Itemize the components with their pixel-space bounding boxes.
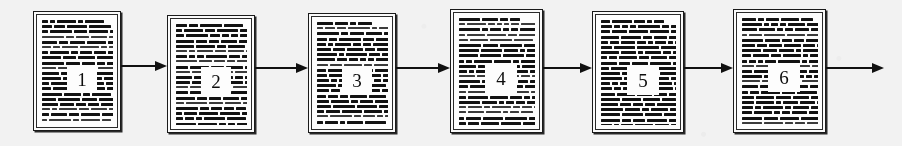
greeked-text-line	[459, 44, 535, 47]
arrow-head-icon	[580, 63, 592, 73]
document-page-5[interactable]: 5	[592, 11, 684, 133]
greeked-text-line	[601, 124, 676, 125]
greeked-text-line	[742, 34, 818, 37]
document-page-surface: 1	[36, 14, 118, 128]
greeked-text-line	[317, 43, 388, 46]
greeked-text-line	[459, 34, 535, 37]
greeked-text-line	[742, 49, 818, 52]
step-number-plaque: 2	[201, 67, 231, 95]
step-number-plaque: 5	[627, 66, 659, 95]
document-page-3[interactable]: 3	[308, 13, 396, 133]
greeked-text-line	[42, 98, 113, 101]
greeked-text-line	[317, 48, 388, 51]
greeked-text-line	[601, 108, 676, 111]
arrow-head-icon	[438, 63, 450, 73]
step-number-label: 2	[211, 72, 221, 91]
document-page-surface: 6	[736, 12, 823, 130]
greeked-text-line	[459, 60, 535, 63]
arrow-4-to-5	[543, 61, 592, 75]
greeked-text-line	[176, 50, 247, 53]
greeked-text-line	[459, 54, 535, 57]
step-number-plaque: 6	[768, 63, 800, 92]
step-number-plaque: 4	[485, 64, 517, 93]
greeked-text-line	[742, 96, 818, 99]
arrow-6-to-output	[826, 61, 884, 75]
greeked-text-line	[176, 55, 247, 58]
greeked-text-line	[42, 36, 113, 39]
greeked-text-line	[601, 56, 676, 59]
greeked-text-line	[317, 115, 388, 118]
greeked-text-line	[176, 123, 247, 125]
pipeline-figure: 123456	[0, 0, 902, 146]
greeked-text-line	[317, 105, 388, 108]
greeked-text-line	[459, 111, 535, 114]
greeked-text-line	[742, 44, 818, 47]
greeked-text-line	[459, 122, 535, 125]
arrow-2-to-3	[255, 61, 308, 75]
step-number-label: 3	[352, 71, 362, 90]
step-number-label: 1	[77, 70, 87, 89]
greeked-text-line	[42, 108, 113, 111]
greeked-text-line	[742, 111, 818, 114]
greeked-text-line	[601, 36, 676, 39]
arrow-head-icon	[296, 63, 308, 73]
greeked-text-line	[176, 24, 247, 27]
greeked-text-line	[42, 46, 113, 49]
greeked-text-line	[42, 41, 113, 44]
greeked-text-line	[601, 46, 676, 49]
greeked-text-line	[459, 49, 535, 52]
document-page-1[interactable]: 1	[33, 11, 121, 131]
greeked-text-line	[176, 60, 247, 63]
arrow-head-icon	[721, 63, 733, 73]
greeked-text-line	[459, 39, 535, 42]
arrow-shaft	[543, 67, 581, 69]
step-number-label: 6	[779, 68, 789, 87]
step-number-label: 4	[496, 69, 506, 88]
greeked-text-line	[317, 100, 388, 103]
greeked-text-line	[176, 45, 247, 48]
greeked-text-line	[742, 39, 818, 42]
greeked-text-line	[459, 101, 535, 104]
greeked-text-line	[42, 25, 113, 28]
greeked-text-line	[601, 25, 676, 28]
arrow-3-to-4	[396, 61, 450, 75]
greeked-text-line	[42, 103, 113, 106]
greeked-text-line	[459, 23, 535, 26]
arrow-head-icon	[155, 61, 167, 71]
greeked-text-line	[42, 93, 113, 96]
greeked-text-line	[42, 20, 113, 23]
document-page-surface: 4	[453, 12, 540, 130]
greeked-text-line	[742, 28, 818, 31]
greeked-text-line	[42, 56, 113, 59]
document-page-2[interactable]: 2	[167, 15, 255, 133]
greeked-text-line	[601, 62, 676, 65]
greeked-text-line	[459, 28, 535, 31]
greeked-text-line	[317, 27, 388, 30]
greeked-text-line	[176, 107, 247, 110]
document-page-surface: 2	[170, 18, 252, 130]
greeked-text-line	[601, 30, 676, 33]
greeked-text-line	[42, 119, 113, 122]
step-number-plaque: 1	[67, 65, 97, 93]
greeked-text-line	[42, 51, 113, 54]
greeked-text-line	[317, 121, 388, 124]
greeked-text-line	[317, 110, 388, 113]
step-number-label: 5	[638, 71, 648, 90]
greeked-text-line	[742, 18, 818, 21]
greeked-text-line	[459, 18, 535, 21]
greeked-text-line	[601, 51, 676, 54]
document-page-surface: 3	[311, 16, 393, 130]
document-page-4[interactable]: 4	[450, 9, 543, 133]
arrow-shaft	[255, 67, 297, 69]
greeked-text-line	[601, 113, 676, 116]
arrow-5-to-6	[684, 61, 733, 75]
greeked-text-line	[459, 96, 535, 99]
document-page-6[interactable]: 6	[733, 9, 826, 133]
greeked-text-line	[317, 95, 388, 98]
arrow-1-to-2	[121, 59, 167, 73]
greeked-text-line	[742, 101, 818, 104]
greeked-text-line	[176, 40, 247, 43]
greeked-text-line	[317, 58, 388, 61]
greeked-text-line	[176, 102, 247, 105]
arrow-shaft	[396, 67, 439, 69]
